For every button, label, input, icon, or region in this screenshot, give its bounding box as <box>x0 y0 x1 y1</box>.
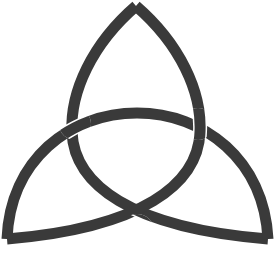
triquetra-icon <box>0 0 274 255</box>
triquetra-figure: Triquetra (trinity knot) symbol <box>0 0 274 255</box>
